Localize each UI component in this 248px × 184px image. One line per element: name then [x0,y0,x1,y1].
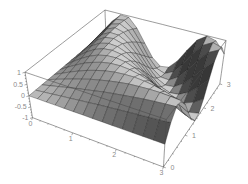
axis-tick-label: 2 [211,105,215,112]
surface-plot-figure: 10.50-0.5-101230123 [0,0,248,184]
axis-tick-label: -0.5 [15,103,27,110]
axis-tick-label: 2 [112,151,116,158]
axis-tick-label: 1 [17,69,21,76]
axis-tick-label: 3 [159,169,163,176]
axis-tick-label: 0 [29,120,33,127]
axis-tick-label: 1 [69,135,73,142]
surface-plot-canvas: 10.50-0.5-101230123 [0,0,248,184]
axis-tick-label: 0 [21,92,25,99]
axis-tick-label: 1 [192,132,196,139]
axis-tick-label: 3 [227,81,231,88]
axis-tick-label: 0.5 [13,81,23,88]
axis-tick-label: 0 [170,164,174,171]
